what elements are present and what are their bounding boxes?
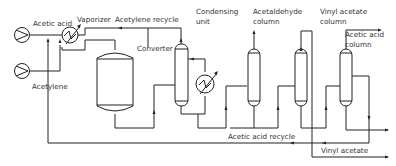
label-acetylene: Acetylene <box>32 82 68 91</box>
label-converter: Converter <box>137 44 173 53</box>
label-vinyl-acetate: Vinyl acetate <box>321 146 369 155</box>
vinyl-acetate-column <box>295 49 307 106</box>
heat-exchanger-icon <box>196 71 218 94</box>
condensing-column <box>175 44 188 106</box>
label-acetylene-recycle: Acetylene recycle <box>115 15 179 24</box>
label-acetic-acid-column-line1: Acetic acid <box>345 30 384 39</box>
label-acetic-acid-column-line2: column <box>345 40 371 49</box>
acetic-acid-pump-icon <box>15 28 30 43</box>
converter-vessel <box>97 53 133 111</box>
label-condensing-unit-line2: unit <box>196 17 210 26</box>
label-condensing-unit-line1: Condensing <box>196 7 238 16</box>
acetaldehyde-column <box>248 49 260 106</box>
acetic-acid-column <box>340 49 352 106</box>
label-vinyl-acetate-column-line1: Vinyl acetate <box>320 7 368 16</box>
label-acetic-acid-recycle: Acetic acid recycle <box>228 132 296 141</box>
label-acetaldehyde-column-line2: column <box>253 17 279 26</box>
label-vaporizer: Vaporizer <box>77 15 111 24</box>
label-vinyl-acetate-column-line2: column <box>320 17 346 26</box>
process-flow-diagram: Acetic acid Acetylene Vaporizer Acetylen… <box>0 0 396 166</box>
acetylene-compressor-icon <box>15 64 30 79</box>
label-acetic-acid: Acetic acid <box>33 19 72 28</box>
label-acetaldehyde-column-line1: Acetaldehyde <box>253 7 303 16</box>
